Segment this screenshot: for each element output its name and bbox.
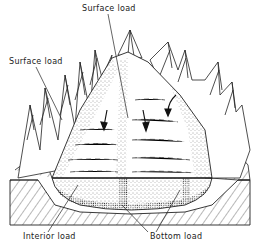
label-surface-load-left: Surface load [9, 57, 63, 66]
label-interior-load: Interior load [23, 232, 76, 241]
cross-section [52, 178, 212, 210]
label-surface-load-top: Surface load [82, 4, 136, 13]
glacier-diagram [0, 0, 262, 250]
label-bottom-load: Bottom load [150, 232, 202, 241]
